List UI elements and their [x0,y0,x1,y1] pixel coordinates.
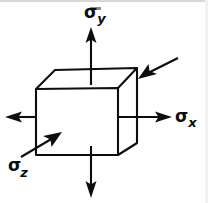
sigma-x-subscript: x [188,115,196,130]
sigma-x-symbol: σ [175,106,188,126]
stress-element-figure: σy σx σz [0,0,208,203]
cube-right-face-edges [118,68,137,155]
sigma-x-arrow-group [5,112,172,123]
sigma-z-arrow-group [21,58,178,157]
sigma-y-arrow-group [86,27,97,198]
sigma-z-in-arrow-shaft [148,58,178,73]
sigma-z-in-arrow-head [138,64,157,79]
sigma-z-subscript: z [20,165,28,180]
sigma-x-label: σx [175,108,197,129]
stress-diagram-canvas [0,0,208,203]
sigma-z-label: σz [8,157,28,179]
cube-top-face-edges [36,68,137,89]
sigma-y-label: σy [84,4,106,25]
sigma-y-subscript: y [97,11,105,26]
sigma-y-symbol: σ [84,2,97,22]
sigma-z-out-arrow-head [43,132,62,147]
cube-front-face-edges [36,88,118,155]
